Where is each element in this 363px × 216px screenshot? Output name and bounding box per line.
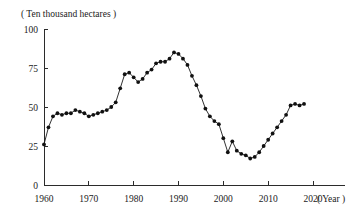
y-tick-label-25: 25 (29, 142, 39, 152)
data-point (221, 136, 225, 140)
data-point (298, 104, 302, 108)
data-point (69, 111, 73, 115)
data-point (177, 52, 181, 56)
data-point (257, 150, 261, 154)
data-point (65, 111, 69, 115)
x-tick-label-2000: 2000 (214, 194, 233, 204)
data-point (190, 74, 194, 78)
data-point (141, 77, 145, 81)
data-point (244, 153, 248, 157)
data-point (248, 157, 252, 161)
data-point (212, 119, 216, 123)
data-point (172, 51, 176, 55)
data-point (284, 113, 288, 117)
data-point (208, 114, 212, 118)
data-point (239, 152, 243, 156)
y-axis-unit-label: ( Ten thousand hectares ) (21, 9, 116, 20)
data-point-markers (42, 51, 306, 161)
data-point (302, 102, 306, 106)
data-point (145, 71, 149, 75)
data-point (47, 125, 51, 129)
data-point (230, 139, 234, 143)
data-point (235, 149, 239, 153)
data-point (262, 144, 266, 148)
data-point (118, 86, 122, 90)
data-point (96, 111, 100, 115)
x-axis-ticks (44, 181, 313, 185)
x-tick-label-1990: 1990 (169, 194, 188, 204)
data-point (195, 83, 199, 87)
data-point (271, 132, 275, 136)
line-chart: ( Ten thousand hectares ) 0255075100 196… (0, 0, 363, 216)
x-tick-label-1980: 1980 (124, 194, 143, 204)
data-point (87, 114, 91, 118)
data-point (289, 104, 293, 108)
y-tick-label-75: 75 (29, 64, 39, 74)
data-point (73, 108, 77, 112)
data-point (217, 122, 221, 126)
data-point (253, 155, 257, 159)
y-tick-label-0: 0 (33, 181, 38, 191)
data-point (51, 114, 55, 118)
data-point (127, 71, 131, 75)
data-point (280, 119, 284, 123)
y-tick-label-100: 100 (24, 25, 39, 35)
data-point (204, 107, 208, 111)
x-tick-label-2010: 2010 (259, 194, 278, 204)
x-tick-label-1960: 1960 (35, 194, 54, 204)
data-point (78, 110, 82, 114)
x-axis-tick-labels: 1960197019801990200020102020 (35, 194, 323, 204)
data-point (60, 113, 64, 117)
data-point (159, 60, 163, 64)
data-point (266, 138, 270, 142)
data-point (91, 113, 95, 117)
y-axis-ticks (44, 29, 48, 185)
data-point (275, 125, 279, 129)
data-point (293, 102, 297, 106)
data-point (114, 100, 118, 104)
data-point (42, 143, 46, 147)
data-point (199, 94, 203, 98)
data-point (186, 63, 190, 67)
data-point (105, 108, 109, 112)
data-point (109, 105, 113, 109)
data-point (82, 111, 86, 115)
data-point (181, 57, 185, 61)
x-tick-label-1970: 1970 (79, 194, 98, 204)
y-axis-tick-labels: 0255075100 (24, 25, 39, 191)
x-axis-caption: ( Year ) (317, 194, 345, 205)
data-point (56, 111, 60, 115)
data-point (163, 60, 167, 64)
data-point (132, 75, 136, 79)
data-point (226, 150, 230, 154)
data-point (123, 72, 127, 76)
data-point (168, 57, 172, 61)
y-tick-label-50: 50 (29, 103, 39, 113)
chart-container: ( Ten thousand hectares ) 0255075100 196… (0, 0, 363, 216)
data-point (100, 110, 104, 114)
data-point (150, 68, 154, 72)
data-point (136, 80, 140, 84)
data-point (154, 61, 158, 65)
data-series-line (44, 52, 304, 158)
